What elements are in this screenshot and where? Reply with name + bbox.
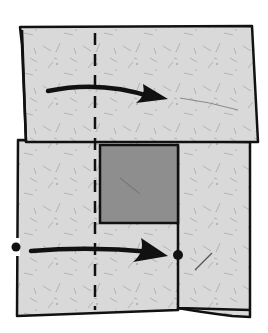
inner-square [100,145,178,223]
target-dot-icon [173,250,183,260]
left-edge-dot-icon [12,243,21,252]
origami-diagram [0,0,268,333]
top-flap [20,26,258,142]
